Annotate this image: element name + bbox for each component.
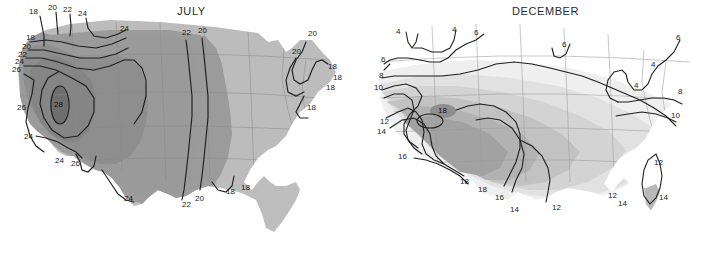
- contour-label: 26: [12, 66, 21, 74]
- contour-label: 18: [29, 8, 38, 16]
- contour-label: 12: [380, 118, 389, 126]
- contour-label: 14: [377, 128, 386, 136]
- contour-label: 6: [381, 56, 385, 64]
- contour-label: 4: [634, 82, 638, 90]
- two-panel-us-contour-figure: JULY: [0, 0, 719, 253]
- contour-label: 18: [26, 34, 35, 42]
- contour-label: 20: [308, 30, 317, 38]
- contour-label: 18: [326, 84, 335, 92]
- contour-label: 10: [671, 112, 680, 120]
- panel-july: JULY: [0, 0, 359, 253]
- contour-label: 14: [510, 206, 519, 214]
- contour-label: 6: [474, 29, 478, 37]
- contour-label: 18: [241, 184, 250, 192]
- december-map-graphic: [360, 0, 719, 253]
- contour-label: 28: [54, 101, 63, 109]
- contour-label: 22: [182, 201, 191, 209]
- contour-label: 26: [17, 104, 26, 112]
- contour-label: 8: [379, 72, 383, 80]
- panel-december: DECEMBER: [360, 0, 719, 253]
- contour-label: 24: [24, 133, 33, 141]
- contour-label: 12: [654, 159, 663, 167]
- contour-label: 16: [398, 153, 407, 161]
- contour-label: 4: [452, 26, 456, 34]
- contour-label: 4: [396, 28, 400, 36]
- contour-label: 12: [552, 204, 561, 212]
- contour-label: 24: [120, 25, 129, 33]
- contour-label: 18: [226, 188, 235, 196]
- contour-label: 16: [495, 194, 504, 202]
- contour-label: 24: [55, 157, 64, 165]
- contour-label: 6: [676, 34, 680, 42]
- contour-label: 20: [198, 27, 207, 35]
- contour-label: 18: [478, 186, 487, 194]
- contour-label: 4: [651, 61, 655, 69]
- contour-label: 12: [608, 192, 617, 200]
- contour-label: 20: [195, 195, 204, 203]
- contour-label: 18: [460, 178, 469, 186]
- contour-label: 6: [562, 41, 566, 49]
- contour-label: 18: [328, 63, 337, 71]
- contour-label: 14: [659, 194, 668, 202]
- contour-label: 24: [124, 195, 133, 203]
- contour-label: 10: [374, 84, 383, 92]
- contour-label: 22: [63, 6, 72, 14]
- contour-label: 18: [307, 104, 316, 112]
- contour-label: 18: [333, 74, 342, 82]
- contour-label: 18: [438, 107, 447, 115]
- contour-label: 8: [678, 88, 682, 96]
- contour-label: 22: [182, 29, 191, 37]
- contour-label: 14: [618, 200, 627, 208]
- contour-label: 24: [78, 10, 87, 18]
- contour-label: 26: [71, 160, 80, 168]
- contour-label: 20: [292, 48, 301, 56]
- contour-label: 20: [48, 4, 57, 12]
- july-map-graphic: [0, 0, 359, 253]
